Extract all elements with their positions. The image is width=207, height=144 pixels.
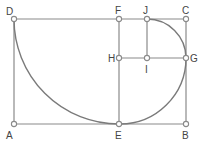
point-i bbox=[144, 55, 149, 60]
spiral-arcs bbox=[14, 19, 186, 124]
label-h: H bbox=[108, 53, 115, 64]
point-f bbox=[116, 16, 121, 21]
label-b: B bbox=[182, 130, 189, 141]
label-c: C bbox=[182, 5, 189, 16]
label-g: G bbox=[190, 53, 198, 64]
label-d: D bbox=[6, 6, 13, 17]
points bbox=[11, 16, 188, 126]
arc-de bbox=[14, 19, 119, 124]
point-a bbox=[11, 121, 16, 126]
point-h bbox=[116, 55, 121, 60]
arc-eg bbox=[119, 58, 186, 124]
label-i: I bbox=[145, 64, 148, 75]
label-f: F bbox=[115, 5, 121, 16]
point-c bbox=[183, 16, 188, 21]
label-e: E bbox=[115, 130, 122, 141]
line-segments bbox=[14, 19, 186, 124]
arc-gj bbox=[147, 19, 186, 58]
point-g bbox=[183, 55, 188, 60]
point-b bbox=[183, 121, 188, 126]
point-d bbox=[11, 16, 16, 21]
point-j bbox=[144, 16, 149, 21]
point-e bbox=[116, 121, 121, 126]
label-j: J bbox=[143, 5, 148, 16]
golden-rectangle-diagram: ABCDEFGHIJ bbox=[0, 0, 207, 144]
label-a: A bbox=[6, 130, 13, 141]
